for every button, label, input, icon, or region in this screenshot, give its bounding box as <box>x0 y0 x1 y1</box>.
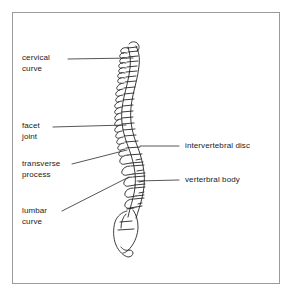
label-lumbar-curve: lumbar curve <box>22 205 47 227</box>
label-vertebral-body: verterbral body <box>185 174 240 185</box>
label-facet-joint: facet joint <box>22 120 40 142</box>
transverse-process-l5 <box>138 203 142 204</box>
lumbar-disc-2 <box>131 165 144 166</box>
leader-line-facet-joint <box>53 125 126 127</box>
leader-line-transverse-process <box>72 150 127 164</box>
leader-line-lumbar-curve <box>62 177 129 211</box>
coccyx-tip <box>121 247 129 250</box>
cervical-disc-6 <box>126 71 137 72</box>
label-cervical-curve: cervical curve <box>22 52 50 74</box>
thoracic-disc-9 <box>123 129 135 130</box>
cervical-disc-7 <box>126 76 136 77</box>
lumbar-spinous-2 <box>122 166 133 175</box>
label-transverse-process: transverse process <box>22 158 60 180</box>
cervical-disc-4 <box>127 61 138 62</box>
cervical-disc-2 <box>128 51 138 52</box>
sacrum-inner-line-1 <box>121 214 126 228</box>
thoracic-disc-2 <box>124 87 135 88</box>
label-cervical-curve-line2: curve <box>22 63 50 74</box>
lumbar-disc-4 <box>134 187 145 188</box>
cervical-spinous-7 <box>118 78 125 84</box>
lumbar-disc-5 <box>134 198 144 199</box>
sacral-ridge-2 <box>118 229 134 230</box>
label-cervical-curve-line1: cervical <box>22 52 50 63</box>
transverse-process-l1 <box>136 159 141 160</box>
label-vertebral-body-line1: verterbral body <box>185 174 240 185</box>
thoracic-disc-3 <box>124 93 134 94</box>
thoracic-disc-6 <box>122 111 133 112</box>
cervical-disc-1 <box>128 47 137 48</box>
label-lumbar-curve-line1: lumbar <box>22 205 47 216</box>
label-transverse-process-line1: transverse <box>22 158 60 169</box>
lumbar-body-3-inferior <box>135 184 145 185</box>
transverse-process-l2 <box>137 170 143 171</box>
label-lumbar-curve-line2: curve <box>22 216 47 227</box>
label-transverse-process-line2: process <box>22 169 60 180</box>
lumbar-body-5-inferior <box>136 206 142 207</box>
spine-diagram-figure: cervical curve facet joint transverse pr… <box>0 0 292 298</box>
sacrum-anterior-border <box>123 210 138 253</box>
leader-line-vertebral-body <box>137 180 179 181</box>
label-intervertebral-disc-line1: intervertebral disc <box>185 140 250 151</box>
label-facet-joint-line2: joint <box>22 131 40 142</box>
thoracic-disc-7 <box>122 117 133 118</box>
leader-line-cervical-curve <box>68 58 133 59</box>
lumbar-disc-3 <box>133 176 145 177</box>
cervical-disc-5 <box>127 66 137 67</box>
thoracic-disc-8 <box>122 123 134 124</box>
label-intervertebral-disc: intervertebral disc <box>185 140 250 151</box>
label-facet-joint-line1: facet <box>22 120 40 131</box>
thoracic-disc-1 <box>125 81 136 82</box>
